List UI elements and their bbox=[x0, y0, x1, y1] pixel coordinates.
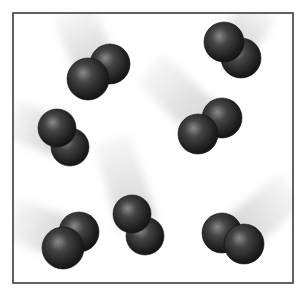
atom-sphere bbox=[42, 227, 84, 269]
atom-sphere bbox=[67, 58, 109, 100]
atom-sphere bbox=[178, 114, 218, 154]
atom-sphere bbox=[113, 195, 151, 233]
atom-sphere bbox=[38, 109, 76, 147]
atom-sphere bbox=[204, 22, 244, 62]
gas-molecules-diagram bbox=[0, 0, 303, 295]
atom-sphere bbox=[224, 224, 264, 264]
